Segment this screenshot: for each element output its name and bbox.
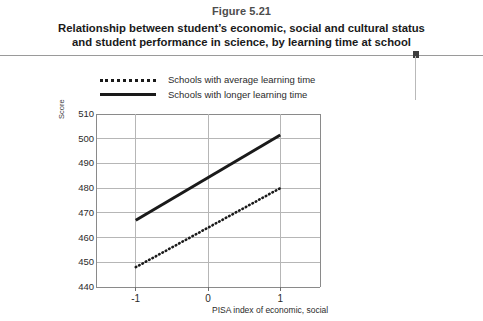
y-axis-tick-label: 500 bbox=[62, 133, 94, 144]
y-axis-tick-label: 490 bbox=[62, 157, 94, 168]
x-axis-tick-label: -1 bbox=[121, 293, 151, 304]
x-axis-tick-label: 0 bbox=[193, 293, 223, 304]
x-axis-title: PISA index of economic, social bbox=[212, 305, 328, 315]
x-axis-tick-label: 1 bbox=[265, 293, 295, 304]
y-axis-tick-label: 510 bbox=[62, 108, 94, 119]
y-axis-tick-label: 460 bbox=[62, 232, 94, 243]
y-axis-tick-label: 470 bbox=[62, 207, 94, 218]
chart-area: Score 440450460470480490500510-101 PISA … bbox=[0, 0, 483, 321]
y-axis-tick-label: 450 bbox=[62, 256, 94, 267]
y-axis-tick-label: 480 bbox=[62, 182, 94, 193]
y-axis-tick-label: 440 bbox=[62, 281, 94, 292]
